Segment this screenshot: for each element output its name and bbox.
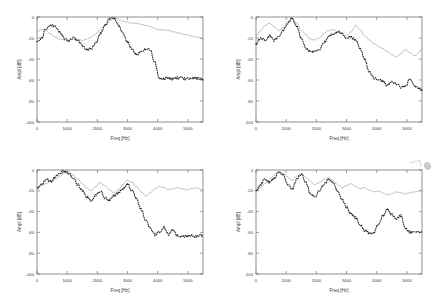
svg-text:0: 0	[32, 168, 35, 173]
svg-text:4000: 4000	[372, 278, 382, 283]
svg-text:5000: 5000	[402, 278, 412, 283]
series-measured-response	[37, 17, 203, 80]
svg-text:1000: 1000	[63, 126, 73, 131]
svg-text:1000: 1000	[282, 278, 292, 283]
plot-svg-top-right[interactable]: 0100020003000400050000-20-40-60-80-100Fr…	[219, 0, 439, 155]
svg-text:4000: 4000	[372, 126, 382, 131]
svg-text:3000: 3000	[342, 126, 352, 131]
svg-text:0: 0	[32, 15, 35, 20]
svg-text:-60: -60	[28, 230, 35, 235]
svg-text:3000: 3000	[123, 126, 133, 131]
svg-text:0: 0	[251, 168, 254, 173]
svg-text:-40: -40	[28, 57, 35, 62]
svg-text:3000: 3000	[342, 278, 352, 283]
svg-text:-60: -60	[28, 78, 35, 83]
svg-text:0: 0	[36, 126, 39, 131]
svg-text:-80: -80	[247, 99, 254, 104]
svg-text:3000: 3000	[123, 278, 133, 283]
svg-text:0: 0	[255, 278, 258, 283]
svg-text:-20: -20	[247, 188, 254, 193]
svg-text:0: 0	[255, 126, 258, 131]
svg-text:5000: 5000	[183, 278, 193, 283]
svg-text:5000: 5000	[402, 126, 412, 131]
series-measured-response	[256, 172, 422, 234]
svg-text:-20: -20	[28, 188, 35, 193]
svg-text:Ampl [dB]: Ampl [dB]	[17, 212, 22, 232]
svg-text:-40: -40	[247, 57, 254, 62]
svg-text:0: 0	[251, 15, 254, 20]
svg-text:1000: 1000	[63, 278, 73, 283]
figure-canvas: 0100020003000400050000-20-40-60-80-100Fr…	[0, 0, 439, 307]
series-measured-response	[37, 170, 203, 237]
svg-text:-40: -40	[28, 209, 35, 214]
svg-text:-100: -100	[245, 120, 254, 125]
svg-text:Freq [Hz]: Freq [Hz]	[111, 136, 130, 141]
svg-text:-80: -80	[247, 251, 254, 256]
svg-text:4000: 4000	[153, 278, 163, 283]
svg-text:5000: 5000	[183, 126, 193, 131]
svg-text:-100: -100	[26, 272, 35, 277]
svg-text:Ampl [dB]: Ampl [dB]	[236, 212, 241, 232]
svg-text:Freq [Hz]: Freq [Hz]	[330, 136, 349, 141]
svg-text:0: 0	[36, 278, 39, 283]
plot-svg-bottom-left[interactable]: 0100020003000400050000-20-40-60-80-100Fr…	[0, 153, 220, 307]
svg-text:1000: 1000	[282, 126, 292, 131]
subplot-top-right: 0100020003000400050000-20-40-60-80-100Fr…	[219, 0, 439, 155]
svg-text:-20: -20	[247, 36, 254, 41]
plot-svg-bottom-right[interactable]: 0100020003000400050000-20-40-60-80-100Fr…	[219, 153, 439, 307]
svg-text:Ampl [dB]: Ampl [dB]	[17, 60, 22, 80]
svg-text:-100: -100	[245, 272, 254, 277]
svg-text:-80: -80	[28, 99, 35, 104]
svg-text:4000: 4000	[153, 126, 163, 131]
subplot-bottom-right: 0100020003000400050000-20-40-60-80-100Fr…	[219, 153, 439, 307]
svg-text:-60: -60	[247, 230, 254, 235]
svg-text:-100: -100	[26, 120, 35, 125]
svg-text:2000: 2000	[93, 126, 103, 131]
svg-text:-60: -60	[247, 78, 254, 83]
svg-text:-40: -40	[247, 209, 254, 214]
svg-text:-80: -80	[28, 251, 35, 256]
svg-text:Freq [Hz]: Freq [Hz]	[111, 288, 130, 293]
svg-text:Ampl [dB]: Ampl [dB]	[236, 60, 241, 80]
subplot-bottom-left: 0100020003000400050000-20-40-60-80-100Fr…	[0, 153, 220, 307]
svg-text:-20: -20	[28, 36, 35, 41]
svg-text:2000: 2000	[312, 278, 322, 283]
svg-text:Freq [Hz]: Freq [Hz]	[330, 288, 349, 293]
series-model-response	[256, 19, 422, 57]
subplot-top-left: 0100020003000400050000-20-40-60-80-100Fr…	[0, 0, 220, 155]
plot-svg-top-left[interactable]: 0100020003000400050000-20-40-60-80-100Fr…	[0, 0, 220, 155]
svg-text:2000: 2000	[93, 278, 103, 283]
svg-text:2000: 2000	[312, 126, 322, 131]
series-model-response	[37, 18, 203, 41]
